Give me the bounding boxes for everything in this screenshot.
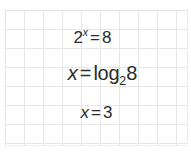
equation-1-result: 8: [102, 28, 111, 47]
equation-2-variable: x: [68, 62, 78, 84]
worksheet-canvas: 2x=8 x=log28 x=3: [0, 0, 191, 152]
equation-1-operator: =: [88, 28, 102, 47]
equation-2-argument: 8: [126, 62, 137, 84]
equation-2-log-function: log: [93, 62, 119, 84]
exponential-equation: 2x=8: [0, 27, 191, 46]
equation-stack: 2x=8 x=log28 x=3: [0, 0, 191, 152]
equation-1-base: 2: [74, 28, 83, 47]
logarithm-equation: x=log28: [0, 63, 191, 87]
equation-3-operator: =: [89, 103, 103, 122]
equation-3-value: 3: [103, 103, 112, 122]
solution-equation: x=3: [0, 104, 191, 121]
equation-2-operator: =: [78, 62, 94, 84]
equation-3-variable: x: [81, 103, 90, 122]
